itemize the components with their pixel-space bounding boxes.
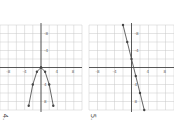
graph-exercise-4: -8-448-8-448 xyxy=(0,0,86,133)
graph-exercise-5: -8-448-8-448 xyxy=(87,0,174,133)
svg-text:-4: -4 xyxy=(135,48,139,53)
svg-text:-8: -8 xyxy=(6,69,10,74)
svg-text:8: 8 xyxy=(72,69,75,74)
svg-text:8: 8 xyxy=(164,69,167,74)
coordinate-plane-4: -8-448-8-448 xyxy=(0,0,86,133)
svg-text:4: 4 xyxy=(147,69,150,74)
exercise-label-4: 4. xyxy=(1,114,9,121)
svg-text:-4: -4 xyxy=(44,48,48,53)
svg-text:-8: -8 xyxy=(44,31,48,36)
svg-text:4: 4 xyxy=(55,69,58,74)
coordinate-plane-5: -8-448-8-448 xyxy=(87,0,174,133)
svg-text:-8: -8 xyxy=(96,69,100,74)
svg-text:-4: -4 xyxy=(113,69,117,74)
svg-text:-8: -8 xyxy=(135,31,139,36)
exercise-label-5: 5. xyxy=(89,114,97,121)
svg-text:-4: -4 xyxy=(23,69,27,74)
